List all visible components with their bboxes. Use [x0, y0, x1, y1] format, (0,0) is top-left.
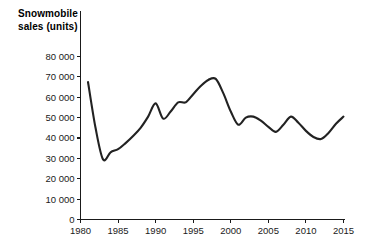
y-axis: 010 00020 00030 00040 00050 00060 00070 … — [45, 11, 80, 225]
y-tick-label: 60 000 — [45, 92, 74, 103]
y-tick-label: 50 000 — [45, 112, 74, 123]
x-tick-label: 2010 — [295, 225, 316, 236]
chart-container: Snowmobile sales (units) 010 00020 00030… — [0, 0, 371, 251]
y-tick-label: 30 000 — [45, 153, 74, 164]
data-series-group — [88, 78, 343, 160]
y-tick-label: 0 — [69, 214, 74, 225]
y-tick-label: 10 000 — [45, 194, 74, 205]
x-axis: 19801985199019952000200520102015 — [70, 220, 354, 237]
x-tick-label: 1985 — [108, 225, 129, 236]
x-tick-label: 1990 — [145, 225, 166, 236]
y-tick-label: 70 000 — [45, 71, 74, 82]
y-tick-label: 20 000 — [45, 173, 74, 184]
x-tick-label: 1995 — [183, 225, 204, 236]
x-tick-label: 1980 — [70, 225, 91, 236]
x-tick-label: 2000 — [220, 225, 241, 236]
y-tick-label: 80 000 — [45, 51, 74, 62]
x-tick-label: 2015 — [333, 225, 354, 236]
y-tick-label: 40 000 — [45, 132, 74, 143]
line-chart-plot: 010 00020 00030 00040 00050 00060 00070 … — [0, 0, 371, 251]
data-line-snowmobile-sales — [88, 78, 343, 160]
x-tick-label: 2005 — [258, 225, 279, 236]
